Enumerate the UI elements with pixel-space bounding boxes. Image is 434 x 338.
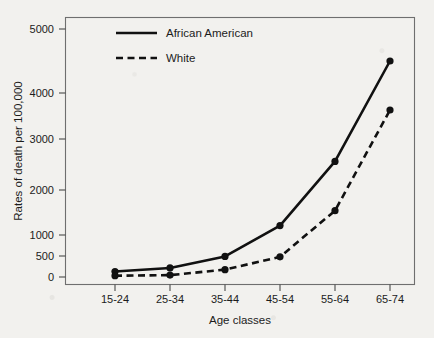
y-tick-label-0: 0	[48, 271, 54, 283]
y-axis-tick-labels: 5000 4000 3000 2000 1000 500 0	[30, 23, 54, 283]
data-point-white-25-34	[166, 272, 173, 279]
x-axis-ticks	[115, 285, 390, 292]
data-point-white-45-54	[276, 253, 283, 260]
series-layer	[111, 57, 393, 279]
y-tick-label-5000: 5000	[30, 23, 54, 35]
data-point-african-american-35-44	[221, 253, 228, 260]
data-point-white-35-44	[221, 266, 228, 273]
chart-figure: 5000 4000 3000 2000 1000 500 0 Rates of …	[0, 0, 434, 338]
y-tick-label-4000: 4000	[30, 87, 54, 99]
series-line-african-american	[115, 61, 390, 272]
legend-label-white: White	[166, 52, 195, 64]
data-point-white-65-74	[386, 106, 393, 113]
y-tick-label-2000: 2000	[30, 184, 54, 196]
data-point-african-american-55-64	[331, 158, 338, 165]
y-tick-label-500: 500	[36, 250, 54, 262]
y-tick-label-3000: 3000	[30, 133, 54, 145]
data-point-african-american-25-34	[166, 264, 173, 271]
data-point-white-55-64	[331, 207, 338, 214]
x-tick-label-0: 15-24	[101, 293, 129, 305]
x-tick-label-3: 45-54	[266, 293, 294, 305]
y-axis-ticks	[59, 29, 66, 277]
y-tick-label-1000: 1000	[30, 229, 54, 241]
line-chart: 5000 4000 3000 2000 1000 500 0 Rates of …	[0, 0, 434, 338]
x-tick-label-1: 25-34	[156, 293, 184, 305]
data-point-white-15-24	[111, 272, 118, 279]
legend-label-african-american: African American	[166, 27, 253, 39]
x-axis-tick-labels: 15-24 25-34 35-44 45-54 55-64 65-74	[101, 293, 404, 305]
x-tick-label-4: 55-64	[321, 293, 349, 305]
chart-legend: African American White	[116, 27, 253, 64]
data-point-african-american-65-74	[386, 57, 393, 64]
data-point-african-american-45-54	[276, 222, 283, 229]
y-axis-title: Rates of death per 100,000	[12, 81, 24, 220]
x-tick-label-5: 65-74	[376, 293, 404, 305]
x-tick-label-2: 35-44	[211, 293, 239, 305]
x-axis-title: Age classes	[209, 314, 271, 326]
